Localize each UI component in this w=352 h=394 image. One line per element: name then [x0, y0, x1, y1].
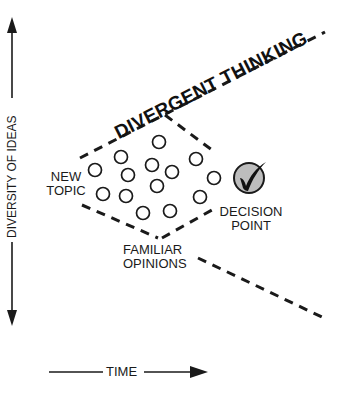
decision-point-line2: POINT [218, 219, 284, 233]
decision-point-line1: DECISION [218, 205, 284, 219]
lower-divergent-dashed-line [198, 258, 324, 318]
idea-circle-icon [190, 153, 203, 166]
familiar-opinions-line2: OPINIONS [123, 257, 193, 271]
idea-circle-icon [194, 191, 207, 204]
idea-circle-icon [137, 207, 150, 220]
idea-circle-icon [89, 164, 102, 177]
idea-circle-icon [122, 169, 135, 182]
arrow-up-icon [7, 17, 17, 33]
inner-upper-dashed-line [165, 115, 216, 153]
new-topic-label: NEW TOPIC [45, 170, 87, 198]
arrow-right-icon [190, 366, 208, 378]
new-topic-line2: TOPIC [45, 184, 87, 198]
new-topic-line1: NEW [45, 170, 87, 184]
checkmark-circle-icon [234, 162, 266, 193]
idea-circle-icon [208, 172, 221, 185]
arrow-down-icon [7, 310, 17, 326]
y-axis-label: DIVERSITY OF IDEAS [5, 116, 19, 238]
idea-circle-icon [164, 205, 177, 218]
idea-circle-icon [120, 190, 133, 203]
familiar-opinions-line1: FAMILIAR [123, 243, 193, 257]
idea-circle-icon [97, 188, 110, 201]
idea-circle-icon [146, 159, 159, 172]
familiar-opinions-label: FAMILIAR OPINIONS [123, 243, 193, 271]
idea-circle-icon [153, 136, 166, 149]
decision-point-label: DECISION POINT [218, 205, 284, 233]
idea-circle-icon [166, 166, 179, 179]
idea-circle-icon [115, 151, 128, 164]
x-axis-label: TIME [106, 365, 137, 379]
idea-circles [89, 136, 221, 220]
idea-circle-icon [151, 180, 164, 193]
